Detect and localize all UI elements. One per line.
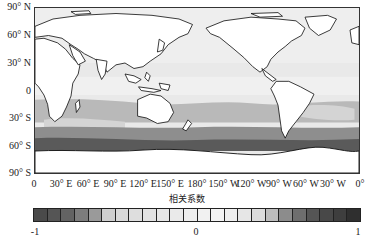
y-label-30n: 30° N (7, 58, 31, 68)
x-label-60e: 60° E (77, 179, 100, 189)
x-label-150e: 150° E (156, 179, 184, 189)
x-label-180: 180° (188, 179, 207, 189)
colorbar-segment (334, 209, 348, 221)
colorbar-segment (129, 209, 143, 221)
colorbar-segment (279, 209, 293, 221)
colorbar-segment (170, 209, 184, 221)
colorbar-segment (89, 209, 103, 221)
x-label-30e: 30° E (50, 179, 73, 189)
map-canvas (35, 8, 359, 173)
colorbar-segment (225, 209, 239, 221)
colorbar-segment (34, 209, 48, 221)
colorbar-segment (48, 209, 62, 221)
x-label-60w: 60° W (293, 179, 319, 189)
colorbar-segment (252, 209, 266, 221)
x-label-120e: 120° E (129, 179, 157, 189)
colorbar-segment (238, 209, 252, 221)
colorbar-segment (61, 209, 75, 221)
x-label-30w: 30° W (320, 179, 346, 189)
colorbar-segment (211, 209, 225, 221)
colorbar-segment (266, 209, 280, 221)
correlation-map (34, 7, 360, 174)
colorbar-segment (116, 209, 130, 221)
x-label-0: 0 (32, 179, 37, 189)
colorbar-segment (307, 209, 321, 221)
colorbar-segment (198, 209, 212, 221)
colorbar-segment (293, 209, 307, 221)
colorbar-segment (75, 209, 89, 221)
colorbar-title: 相关系数 (0, 192, 373, 205)
y-label-30s: 30° S (9, 113, 31, 123)
colorbar-max-label: 1 (356, 227, 361, 237)
x-label-90e: 90° E (104, 179, 127, 189)
colorbar-mid-label: 0 (194, 227, 199, 237)
y-label-60n: 60° N (7, 30, 31, 40)
colorbar-min-label: -1 (31, 227, 39, 237)
colorbar-segment (157, 209, 171, 221)
y-label-60s: 60° S (9, 141, 31, 151)
colorbar-segment (184, 209, 198, 221)
colorbar-segment (102, 209, 116, 221)
x-label-0-end: 0° (356, 179, 365, 189)
x-label-90w: 90° W (266, 179, 292, 189)
y-label-90s: 90° S (9, 168, 31, 178)
colorbar-segment (347, 209, 360, 221)
colorbar-segment (320, 209, 334, 221)
colorbar-segment (143, 209, 157, 221)
x-label-120w: 120° W (236, 179, 267, 189)
y-label-equator: 0 (26, 86, 31, 96)
colorbar (33, 208, 361, 222)
y-label-90n: 90° N (7, 2, 31, 12)
